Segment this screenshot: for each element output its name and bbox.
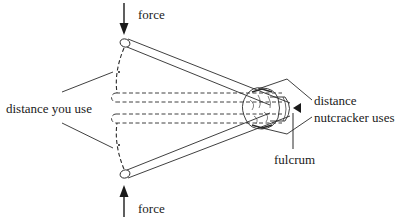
distance-nutcracker-label-line1: distance — [314, 94, 357, 108]
top-handle — [119, 38, 290, 105]
swing-arc — [116, 48, 124, 169]
distance-you-use-label: distance you use — [6, 102, 92, 116]
force-arrow-bottom — [120, 185, 129, 217]
force-label-bottom: force — [138, 202, 165, 216]
fulcrum-label: fulcrum — [274, 153, 315, 167]
force-label-top: force — [138, 8, 165, 22]
force-arrow-top — [120, 3, 129, 35]
fulcrum-pointer — [293, 103, 301, 149]
distance-nutcracker-uses-leaders — [258, 79, 312, 134]
distance-nutcracker-label-line2: nutcracker uses — [314, 111, 395, 125]
